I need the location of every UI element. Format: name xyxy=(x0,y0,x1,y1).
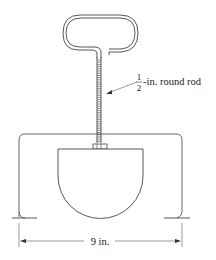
fraction-denominator: 2 xyxy=(137,83,142,93)
half-disk xyxy=(58,149,143,219)
handle-loop xyxy=(63,15,138,58)
dimension-label: 9 in. xyxy=(91,236,110,247)
rod-leader-arrow xyxy=(106,82,137,94)
rod-label: 1 2 -in. round rod xyxy=(136,72,202,93)
dimension-arrow-right xyxy=(175,239,181,243)
threaded-rod xyxy=(97,57,101,143)
rod-bracket-diagram: 1 2 -in. round rod 9 in. xyxy=(0,0,216,260)
fraction-numerator: 1 xyxy=(137,72,142,82)
dimension-arrow-left xyxy=(20,239,26,243)
nut xyxy=(93,144,107,149)
rod-label-text: -in. round rod xyxy=(143,76,202,87)
